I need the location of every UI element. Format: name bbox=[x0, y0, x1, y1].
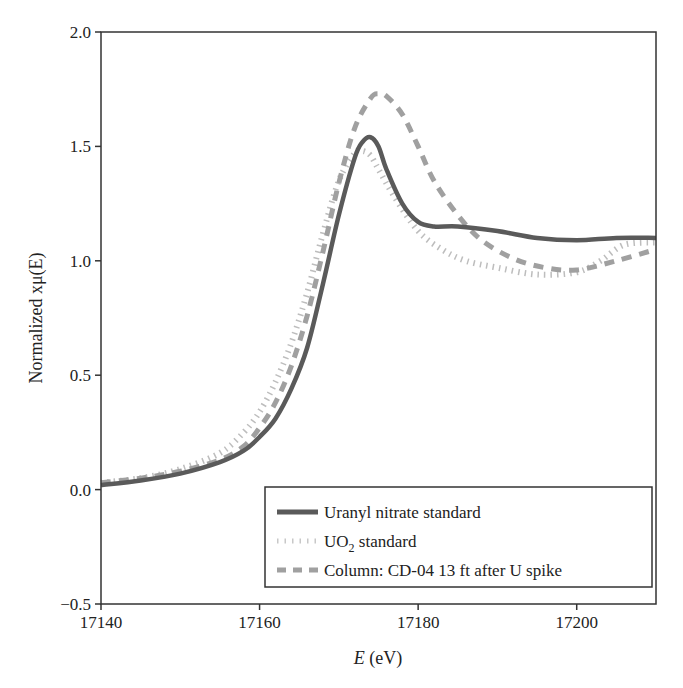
y-tick-label: 1.0 bbox=[70, 252, 91, 271]
x-axis-title: E (eV) bbox=[353, 648, 402, 669]
x-tick-label: 17200 bbox=[555, 613, 598, 632]
y-tick-label: 1.5 bbox=[70, 137, 91, 156]
y-tick-label: 0.5 bbox=[70, 366, 91, 385]
y-axis: −0.50.00.51.01.52.0 bbox=[60, 23, 101, 614]
legend-label-uranyl: Uranyl nitrate standard bbox=[324, 503, 481, 522]
legend: Uranyl nitrate standard UO2 standard Col… bbox=[265, 487, 652, 587]
chart: −0.50.00.51.01.52.0 17140171601718017200… bbox=[0, 0, 683, 688]
y-axis-title: Normalized xμ(E) bbox=[26, 252, 47, 383]
y-tick-label: 2.0 bbox=[70, 23, 91, 42]
series-line-0 bbox=[101, 137, 656, 485]
x-tick-label: 17160 bbox=[238, 613, 281, 632]
x-axis: 17140171601718017200 bbox=[80, 604, 598, 632]
y-tick-label: 0.0 bbox=[70, 481, 91, 500]
series-layer bbox=[101, 93, 656, 485]
x-tick-label: 17140 bbox=[80, 613, 123, 632]
x-axis-title-var: E bbox=[353, 648, 365, 668]
series-line-1 bbox=[101, 150, 656, 483]
y-tick-label: −0.5 bbox=[60, 595, 91, 614]
legend-label-column: Column: CD-04 13 ft after U spike bbox=[324, 561, 562, 580]
x-tick-label: 17180 bbox=[397, 613, 440, 632]
x-axis-title-unit: (eV) bbox=[369, 648, 402, 669]
